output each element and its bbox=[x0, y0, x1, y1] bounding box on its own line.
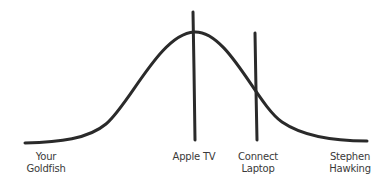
label-line: Stephen bbox=[322, 151, 378, 163]
label-line: Your bbox=[18, 151, 74, 163]
label-your-goldfish: Your Goldfish bbox=[18, 151, 74, 175]
label-line: Goldfish bbox=[18, 163, 74, 175]
label-line: Apple TV bbox=[166, 151, 222, 163]
label-apple-tv: Apple TV bbox=[166, 151, 222, 163]
apple-tv-marker-line bbox=[193, 12, 195, 140]
label-line: Laptop bbox=[230, 163, 286, 175]
label-stephen-hawking: Stephen Hawking bbox=[322, 151, 378, 175]
label-line: Connect bbox=[230, 151, 286, 163]
label-connect-laptop: Connect Laptop bbox=[230, 151, 286, 175]
connect-laptop-marker-line bbox=[255, 33, 257, 140]
label-line: Hawking bbox=[322, 163, 378, 175]
